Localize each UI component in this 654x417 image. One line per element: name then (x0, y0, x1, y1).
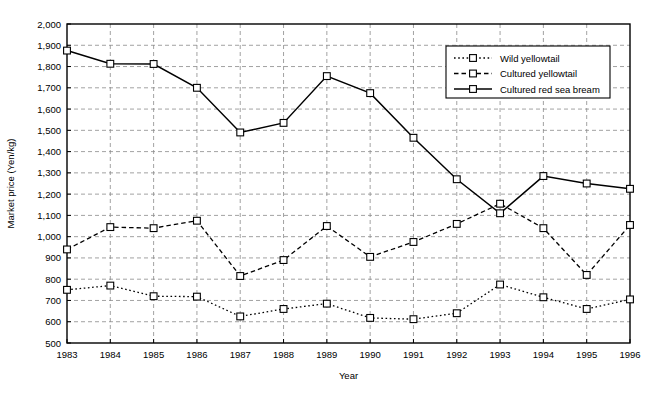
x-tick-label-1996: 1996 (619, 349, 640, 360)
data-point-wild-yellowtail-1989[interactable] (323, 300, 330, 307)
data-point-cultured-yellowtail-1991[interactable] (410, 239, 417, 246)
data-point-cultured-red-sea-bream-1996[interactable] (627, 185, 634, 192)
x-tick-label-1993: 1993 (490, 349, 511, 360)
y-tick-label-1900: 1,900 (37, 40, 61, 51)
series-line-wild-yellowtail (67, 285, 630, 320)
data-point-wild-yellowtail-1991[interactable] (410, 316, 417, 323)
data-point-cultured-yellowtail-1994[interactable] (540, 225, 547, 232)
data-point-cultured-red-sea-bream-1985[interactable] (150, 61, 157, 68)
legend-marker-0 (470, 55, 477, 62)
x-tick-label-1994: 1994 (533, 349, 554, 360)
y-tick-label-1000: 1,000 (37, 231, 61, 242)
data-point-wild-yellowtail-1986[interactable] (194, 293, 201, 300)
y-tick-label-700: 700 (45, 295, 61, 306)
figure-caption (0, 404, 654, 417)
y-tick-label-1600: 1,600 (37, 104, 61, 115)
data-point-cultured-yellowtail-1986[interactable] (194, 217, 201, 224)
data-point-cultured-yellowtail-1990[interactable] (367, 253, 374, 260)
y-tick-label-1200: 1,200 (37, 189, 61, 200)
legend-marker-2 (470, 86, 477, 93)
data-point-cultured-yellowtail-1989[interactable] (323, 223, 330, 230)
data-point-cultured-red-sea-bream-1986[interactable] (194, 84, 201, 91)
data-point-wild-yellowtail-1984[interactable] (107, 282, 114, 289)
data-point-cultured-yellowtail-1995[interactable] (583, 272, 590, 279)
data-point-wild-yellowtail-1983[interactable] (64, 286, 71, 293)
y-tick-label-1400: 1,400 (37, 146, 61, 157)
data-point-cultured-red-sea-bream-1990[interactable] (367, 90, 374, 97)
data-point-cultured-yellowtail-1984[interactable] (107, 224, 114, 231)
data-point-cultured-red-sea-bream-1983[interactable] (64, 47, 71, 54)
data-point-wild-yellowtail-1987[interactable] (237, 313, 244, 320)
data-point-cultured-yellowtail-1988[interactable] (280, 257, 287, 264)
data-point-wild-yellowtail-1995[interactable] (583, 306, 590, 313)
x-tick-label-1983: 1983 (56, 349, 77, 360)
y-tick-label-1700: 1,700 (37, 82, 61, 93)
series-line-cultured-yellowtail (67, 204, 630, 276)
data-point-cultured-red-sea-bream-1995[interactable] (583, 180, 590, 187)
y-tick-label-1500: 1,500 (37, 125, 61, 136)
data-point-wild-yellowtail-1996[interactable] (627, 296, 634, 303)
y-tick-label-500: 500 (45, 338, 61, 349)
x-tick-label-1988: 1988 (273, 349, 294, 360)
data-point-wild-yellowtail-1985[interactable] (150, 293, 157, 300)
x-tick-label-1990: 1990 (360, 349, 381, 360)
line-chart: 5006007008009001,0001,1001,2001,3001,400… (0, 0, 654, 417)
y-axis-title: Market price (Yen/kg) (5, 139, 16, 229)
y-tick-label-800: 800 (45, 274, 61, 285)
figure-container: 5006007008009001,0001,1001,2001,3001,400… (0, 0, 654, 417)
legend-marker-1 (470, 70, 477, 77)
data-point-cultured-red-sea-bream-1984[interactable] (107, 60, 114, 67)
data-point-cultured-yellowtail-1985[interactable] (150, 225, 157, 232)
data-point-cultured-red-sea-bream-1989[interactable] (323, 73, 330, 80)
x-axis-title: Year (339, 370, 358, 381)
data-point-cultured-red-sea-bream-1992[interactable] (453, 176, 460, 183)
data-point-wild-yellowtail-1994[interactable] (540, 294, 547, 301)
x-tick-label-1987: 1987 (230, 349, 251, 360)
x-tick-label-1986: 1986 (186, 349, 207, 360)
data-point-cultured-red-sea-bream-1987[interactable] (237, 129, 244, 136)
y-tick-label-1100: 1,100 (37, 210, 61, 221)
legend-label-cultured-yellowtail: Cultured yellowtail (500, 68, 577, 79)
data-point-cultured-red-sea-bream-1994[interactable] (540, 173, 547, 180)
data-point-cultured-yellowtail-1993[interactable] (497, 200, 504, 207)
x-tick-label-1992: 1992 (446, 349, 467, 360)
y-tick-label-2000: 2,000 (37, 19, 61, 30)
x-tick-label-1985: 1985 (143, 349, 164, 360)
data-point-cultured-yellowtail-1983[interactable] (64, 246, 71, 253)
x-tick-label-1995: 1995 (576, 349, 597, 360)
data-point-cultured-red-sea-bream-1988[interactable] (280, 119, 287, 126)
data-point-wild-yellowtail-1990[interactable] (367, 315, 374, 322)
x-tick-label-1984: 1984 (100, 349, 121, 360)
x-tick-label-1991: 1991 (403, 349, 424, 360)
x-tick-label-1989: 1989 (316, 349, 337, 360)
data-point-cultured-red-sea-bream-1991[interactable] (410, 134, 417, 141)
data-point-wild-yellowtail-1993[interactable] (497, 281, 504, 288)
y-tick-label-1800: 1,800 (37, 61, 61, 72)
data-point-cultured-red-sea-bream-1993[interactable] (497, 210, 504, 217)
data-point-wild-yellowtail-1992[interactable] (453, 310, 460, 317)
data-point-cultured-yellowtail-1992[interactable] (453, 221, 460, 228)
data-point-cultured-yellowtail-1996[interactable] (627, 222, 634, 229)
legend-label-cultured-red-sea-bream: Cultured red sea bream (500, 84, 600, 95)
y-tick-label-900: 900 (45, 252, 61, 263)
data-point-wild-yellowtail-1988[interactable] (280, 306, 287, 313)
data-point-cultured-yellowtail-1987[interactable] (237, 273, 244, 280)
y-tick-label-1300: 1,300 (37, 167, 61, 178)
legend-label-wild-yellowtail: Wild yellowtail (500, 53, 560, 64)
y-tick-label-600: 600 (45, 316, 61, 327)
